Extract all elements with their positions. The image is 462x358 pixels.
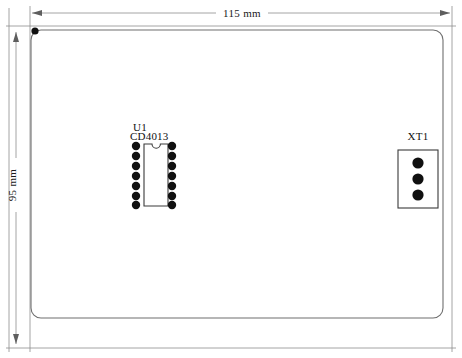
xt1-designator-label: XT1 [408, 130, 429, 142]
pin-1-marker-dot [31, 27, 38, 34]
dimension-width-label: 115 mm [223, 7, 261, 19]
pcb-layout-drawing: 115 mm 95 mm [0, 0, 462, 358]
u1-pads-left [132, 142, 140, 209]
component-xt1-connector: XT1 [398, 130, 438, 208]
u1-pads-right [168, 142, 176, 209]
dimension-width-115mm: 115 mm [32, 7, 450, 19]
dimension-extension-lines [6, 6, 456, 352]
pcb-board-outline [31, 30, 443, 318]
component-u1-cd4013: U1 CD4013 [130, 121, 176, 209]
xt1-pads [412, 157, 423, 200]
dimension-height-95mm: 95 mm [6, 32, 19, 344]
dimension-height-label: 95 mm [6, 169, 18, 202]
u1-part-number-label: CD4013 [130, 130, 169, 142]
